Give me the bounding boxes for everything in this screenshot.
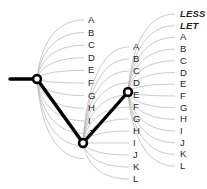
letter-label-i-col1: I — [88, 116, 91, 126]
letter-label-c-col2: C — [133, 66, 140, 76]
letter-label-b-col3: B — [180, 44, 186, 54]
node-second[interactable] — [80, 140, 86, 146]
letter-label-e-col2: E — [133, 90, 139, 100]
word-label-less-col3[interactable]: LESS — [180, 9, 206, 19]
arc-1-3 — [37, 45, 84, 79]
highlighted-path-layer — [10, 79, 128, 143]
diagram-svg — [0, 0, 207, 189]
letter-label-j-col1: J — [88, 129, 93, 139]
diagram-canvas: ABCDEFGHIJABCDEFGHIJKLLESSLETABCDEFGHIJK… — [0, 0, 207, 189]
letter-label-g-col2: G — [133, 114, 140, 124]
letter-label-e-col1: E — [88, 66, 94, 76]
letter-label-i-col2: I — [133, 138, 136, 148]
letter-label-f-col2: F — [133, 102, 139, 112]
letter-label-a-col2: A — [133, 42, 139, 52]
letter-label-k-col3: K — [180, 150, 186, 160]
arc-1-5 — [37, 70, 84, 79]
letter-label-f-col1: F — [88, 78, 94, 88]
segment-root-to-second — [37, 79, 83, 143]
letter-label-i-col3: I — [180, 126, 183, 136]
letter-label-d-col3: D — [180, 68, 187, 78]
letter-label-b-col2: B — [133, 54, 139, 64]
arc-2-12 — [83, 143, 129, 179]
letter-label-h-col1: H — [88, 103, 95, 113]
letter-label-e-col3: E — [180, 79, 186, 89]
letter-label-b-col1: B — [88, 28, 94, 38]
arc-2-10 — [83, 143, 129, 155]
letter-label-c-col1: C — [88, 40, 95, 50]
letter-label-g-col3: G — [180, 103, 187, 113]
arc-1-2 — [37, 33, 84, 79]
node-layer — [32, 74, 133, 148]
letter-label-j-col2: J — [133, 150, 138, 160]
word-label-let-col3[interactable]: LET — [180, 21, 199, 31]
letter-label-h-col2: H — [133, 126, 140, 136]
arc-1-6 — [37, 79, 84, 83]
arc-fan-layer — [37, 14, 175, 179]
letter-label-d-col2: D — [133, 78, 140, 88]
letter-label-l-col2: L — [133, 174, 138, 184]
letter-label-k-col2: K — [133, 162, 139, 172]
letter-label-g-col1: G — [88, 91, 95, 101]
letter-label-l-col3: L — [180, 161, 185, 171]
arc-1-4 — [37, 58, 84, 79]
letter-label-c-col3: C — [180, 56, 187, 66]
letter-label-j-col3: J — [180, 138, 185, 148]
node-third[interactable] — [125, 89, 131, 95]
letter-label-a-col3: A — [180, 33, 186, 43]
letter-label-f-col3: F — [180, 91, 186, 101]
letter-label-a-col1: A — [88, 15, 94, 25]
letter-label-d-col1: D — [88, 53, 95, 63]
node-root[interactable] — [34, 76, 40, 82]
letter-label-h-col3: H — [180, 115, 187, 125]
